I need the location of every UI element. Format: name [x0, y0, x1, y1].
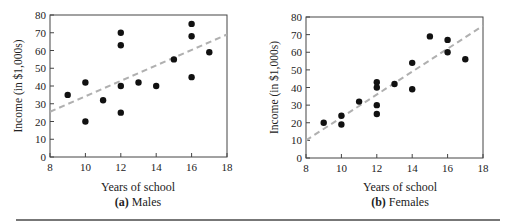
y-axis-label-males: Income (in $1,000s): [12, 39, 25, 132]
y-tick-label: 70: [291, 29, 303, 41]
chart-panel-males: 0102030405060708081012141618Income (in $…: [0, 0, 250, 210]
chart-panel-females: 0102030405060708081012141618Income (in $…: [255, 0, 507, 210]
data-point: [374, 84, 380, 90]
data-point: [427, 33, 433, 39]
data-point: [462, 56, 468, 62]
data-point: [374, 102, 380, 108]
y-tick-label: 30: [291, 99, 303, 111]
subtitle-letter-females: (b): [371, 195, 386, 209]
data-point: [188, 33, 194, 39]
y-tick-label: 70: [35, 27, 47, 39]
y-tick-label: 60: [291, 46, 303, 58]
data-point: [444, 37, 450, 43]
y-tick-label: 0: [297, 152, 303, 164]
scatter-plot-females: 0102030405060708081012141618Income (in $…: [255, 0, 507, 170]
trend-line-males: [50, 35, 227, 112]
x-tick-label: 12: [115, 161, 126, 173]
x-tick-label: 16: [186, 161, 198, 173]
data-point: [374, 111, 380, 117]
subtitle-males: (a) Males: [88, 195, 188, 210]
data-point: [409, 60, 415, 66]
data-point: [338, 113, 344, 119]
scatter-plot-males: 0102030405060708081012141618Income (in $…: [0, 0, 250, 170]
y-tick-label: 60: [35, 45, 47, 57]
data-point: [118, 109, 124, 115]
y-tick-label: 50: [35, 62, 47, 74]
x-tick-label: 12: [371, 162, 382, 174]
y-tick-label: 20: [291, 117, 303, 129]
x-axis-label-males: Years of school: [88, 180, 188, 195]
y-tick-label: 20: [35, 116, 47, 128]
x-tick-label: 10: [80, 161, 92, 173]
data-point: [135, 79, 141, 85]
data-point: [153, 83, 159, 89]
plot-frame-males: [50, 15, 227, 157]
subtitle-females: (b) Females: [350, 195, 450, 210]
data-point: [188, 74, 194, 80]
x-tick-label: 8: [47, 161, 53, 173]
y-tick-label: 10: [291, 134, 303, 146]
y-tick-label: 10: [35, 133, 47, 145]
y-axis-label-females: Income (in $1,000s): [268, 41, 281, 134]
x-tick-label: 18: [222, 161, 234, 173]
data-point: [100, 97, 106, 103]
data-point: [65, 92, 71, 98]
x-tick-label: 14: [407, 162, 419, 174]
y-tick-label: 40: [291, 82, 303, 94]
y-tick-label: 40: [35, 80, 47, 92]
x-tick-label: 16: [442, 162, 454, 174]
data-point: [118, 83, 124, 89]
subtitle-text-females: Females: [389, 195, 429, 209]
x-tick-label: 10: [336, 162, 348, 174]
y-tick-label: 80: [291, 11, 303, 23]
data-point: [409, 86, 415, 92]
x-tick-label: 8: [303, 162, 309, 174]
x-axis-label-females: Years of school: [350, 180, 450, 195]
data-point: [206, 49, 212, 55]
data-point: [444, 49, 450, 55]
data-point: [82, 79, 88, 85]
data-point: [118, 30, 124, 36]
data-point: [356, 98, 362, 104]
subtitle-letter-males: (a): [115, 195, 129, 209]
data-point: [338, 121, 344, 127]
data-point: [82, 118, 88, 124]
data-point: [171, 56, 177, 62]
x-tick-label: 18: [478, 162, 490, 174]
data-point: [391, 81, 397, 87]
y-tick-label: 80: [35, 9, 47, 21]
subtitle-text-males: Males: [132, 195, 161, 209]
bottom-divider-rule: [16, 219, 500, 221]
plot-frame-females: [306, 17, 483, 158]
y-tick-label: 30: [35, 98, 47, 110]
y-tick-label: 50: [291, 64, 303, 76]
data-point: [118, 42, 124, 48]
y-tick-label: 0: [41, 151, 47, 163]
data-point: [321, 120, 327, 126]
x-tick-label: 14: [151, 161, 163, 173]
data-point: [188, 21, 194, 27]
